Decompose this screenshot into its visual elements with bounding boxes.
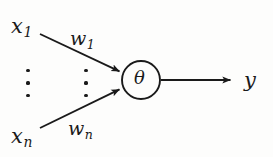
ellipsis-dot [84, 69, 87, 72]
ellipsis-dot [84, 94, 87, 97]
input-ellipsis [25, 69, 31, 97]
weight-ellipsis [83, 69, 89, 97]
ellipsis-dot [26, 94, 29, 97]
weight-label-first-subscript: 1 [87, 37, 95, 52]
input-label-first-base: x [11, 14, 23, 38]
input-label-last: xn [11, 126, 32, 147]
ellipsis-dot [26, 69, 29, 72]
input-label-first-subscript: 1 [23, 24, 32, 40]
weight-label-last: wn [68, 119, 92, 138]
output-label: y [244, 70, 256, 91]
neuron-diagram: x1 xn w1 wn θ y [0, 0, 273, 157]
input-label-first: x1 [11, 16, 32, 37]
ellipsis-dot [26, 81, 29, 84]
ellipsis-dot [84, 81, 87, 84]
weight-label-first-base: w [70, 27, 86, 49]
weight-label-first: w1 [70, 29, 94, 48]
neuron-threshold-symbol: θ [134, 69, 145, 87]
weight-label-last-subscript: n [85, 127, 93, 142]
weight-label-last-base: w [68, 117, 84, 139]
input-label-last-subscript: n [23, 134, 32, 150]
input-label-last-base: x [11, 124, 23, 148]
